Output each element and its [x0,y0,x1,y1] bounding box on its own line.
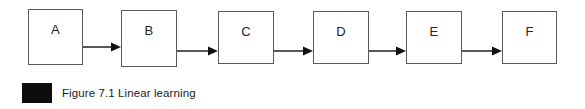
flow-arrow-a-to-b [83,41,121,53]
black-square-marker-icon [22,83,52,103]
figure-caption-text: Figure 7.1 Linear learning [62,87,196,99]
flow-node-b: B [121,10,177,67]
flow-arrow-c-to-d [274,45,313,57]
flow-arrow-b-to-c [177,45,218,57]
flow-arrow-e-to-f [462,45,502,57]
flow-node-e: E [406,11,462,64]
flow-node-label: E [430,25,439,38]
flow-node-a: A [28,9,83,65]
flow-node-label: A [51,23,60,36]
figure-linear-learning: A B C D E F Figure 7.1 Linear learning [0,0,585,109]
figure-caption: Figure 7.1 Linear learning [22,83,196,103]
flow-node-d: D [313,11,369,64]
flow-node-label: C [241,25,251,38]
flow-node-label: F [525,25,533,38]
flow-node-label: B [145,24,154,37]
flow-node-f: F [502,11,557,64]
flow-node-label: D [336,25,346,38]
flow-node-c: C [218,11,274,64]
flow-arrow-d-to-e [369,45,406,57]
